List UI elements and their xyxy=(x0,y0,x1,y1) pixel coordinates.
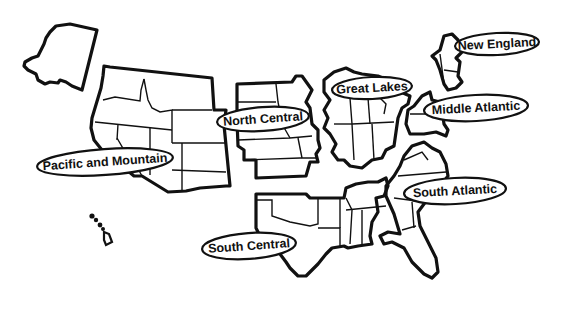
region-south-central xyxy=(256,178,388,276)
region-south-atlantic xyxy=(380,142,448,278)
region-alaska xyxy=(24,24,97,90)
label-pacific-mountain: Pacific and Mountain xyxy=(36,144,173,179)
label-south-atlantic: South Atlantic xyxy=(403,175,506,206)
label-north-central: North Central xyxy=(216,104,309,134)
region-hawaii xyxy=(89,213,112,245)
label-middle-atlantic: Middle Atlantic xyxy=(423,92,528,123)
label-great-lakes: Great Lakes xyxy=(331,75,412,101)
label-new-england: New England xyxy=(454,31,539,57)
us-regions-map: Pacific and Mountain North Central Great… xyxy=(0,0,563,309)
